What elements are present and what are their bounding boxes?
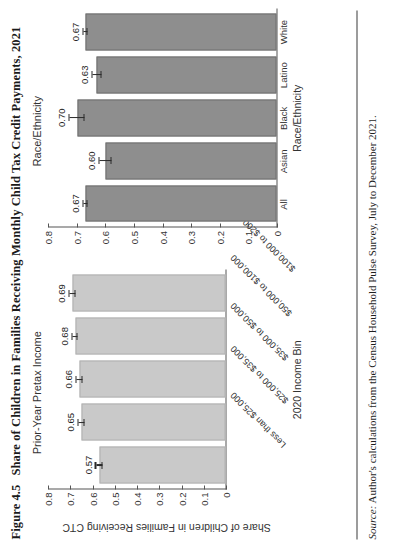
y-axis-ticks-race: 0.80.70.60.50.40.30.20.10 (48, 228, 277, 254)
y-tick-label: 0.4 (157, 231, 168, 244)
bar[interactable] (81, 403, 225, 440)
y-axis-ticks-income: 0.80.70.60.50.40.30.20.10 (48, 489, 226, 515)
error-bar-cap-bottom (86, 200, 87, 207)
x-category-label: Less than $25,000 (226, 444, 288, 487)
panel-title-race: Race/Ethnicity (30, 8, 48, 254)
x-axis-title-race: Race/Ethnicity (290, 8, 302, 228)
panel-prior-year-pretax-income: Prior-Year Pretax Income 0.80.70.60.50.4… (30, 270, 302, 516)
x-category-label: Asian (277, 139, 288, 182)
x-category-label: $50,000 to $100,000 (226, 315, 288, 358)
panel-body-income: 0.80.70.60.50.40.30.20.10 0.570.650.660.… (48, 270, 226, 516)
error-bar-cap-bottom (76, 332, 77, 339)
error-bar-cap-top (77, 418, 78, 425)
plot-area-race: 0.670.600.700.630.67 (48, 8, 277, 228)
bar[interactable] (96, 56, 276, 93)
y-tick-label: 0 (272, 231, 283, 236)
bar-group-income: 0.570.650.660.680.69 (48, 270, 225, 489)
source-note: Source: Author's calculations from the C… (364, 10, 380, 539)
source-divider (356, 10, 357, 539)
y-tick-label: 0.2 (176, 492, 187, 505)
error-bar-cap-bottom (83, 418, 84, 425)
y-axis-title-text: Share of Children in Families Receiving … (62, 522, 270, 534)
panel-body-race: 0.80.70.60.50.40.30.20.10 0.670.600.700.… (48, 8, 277, 254)
bar-column[interactable]: 0.57 (48, 443, 225, 486)
bar[interactable] (75, 317, 225, 354)
y-tick-label: 0.7 (65, 492, 76, 505)
error-bar (69, 117, 83, 118)
bar-value-label: 0.63 (78, 65, 89, 84)
error-bar-cap-top (98, 157, 99, 164)
x-category-label: Latino (277, 53, 288, 96)
bar[interactable] (72, 274, 225, 311)
error-bar-cap-bottom (74, 289, 75, 296)
error-bar-cap-top (82, 28, 83, 35)
y-axis-title: Share of Children in Families Receiving … (30, 515, 302, 541)
x-axis-categories-income: Less than $25,000$25,000 to $35,000$35,0… (226, 270, 288, 490)
y-tick-label: 0.6 (100, 231, 111, 244)
bar-value-label: 0.65 (64, 412, 75, 431)
error-bar-cap-bottom (101, 461, 102, 468)
chart-panels: Share of Children in Families Receiving … (30, 8, 302, 541)
x-category-label: Black (277, 96, 288, 139)
bar-column[interactable]: 0.66 (48, 357, 225, 400)
bar-column[interactable]: 0.67 (48, 10, 276, 53)
bar-column[interactable]: 0.63 (48, 53, 276, 96)
bar-value-label: 0.66 (62, 369, 73, 388)
y-tick-label: 0.5 (128, 231, 139, 244)
error-bar-cap-top (82, 200, 83, 207)
bar-column[interactable]: 0.65 (48, 400, 225, 443)
panel-race-ethnicity: Race/Ethnicity 0.80.70.60.50.40.30.20.10… (30, 8, 302, 254)
error-bar-cap-top (68, 114, 69, 121)
bar-value-label: 0.57 (82, 455, 93, 474)
y-tick-label: 0.8 (43, 231, 54, 244)
x-category-label: $35,000 to $50,000 (226, 358, 288, 401)
y-tick-label: 0.2 (214, 231, 225, 244)
bar[interactable] (85, 185, 276, 222)
x-category-label: All (277, 182, 288, 225)
error-bar-cap-top (91, 71, 92, 78)
bar-column[interactable]: 0.60 (48, 139, 276, 182)
x-axis-title-income: 2020 Income Bin (290, 270, 302, 490)
y-tick-label: 0 (221, 492, 232, 497)
error-bar-cap-top (75, 375, 76, 382)
y-tick-label: 0.8 (43, 492, 54, 505)
error-bar-cap-bottom (83, 114, 84, 121)
error-bar-cap-bottom (86, 28, 87, 35)
plot-area-income: 0.570.650.660.680.69 (48, 270, 226, 490)
x-category-label: $25,000 to $35,000 (226, 401, 288, 444)
bar[interactable] (105, 142, 276, 179)
figure-number: Figure 4.5 (8, 484, 22, 539)
bar[interactable] (77, 99, 277, 136)
error-bar (99, 160, 112, 161)
bar-value-label: 0.70 (55, 108, 66, 127)
error-bar-cap-bottom (81, 375, 82, 382)
x-axis-categories-race: AllAsianBlackLatinoWhite (277, 8, 288, 228)
bar-column[interactable]: 0.68 (48, 314, 225, 357)
bar-value-label: 0.60 (85, 151, 96, 170)
error-bar-cap-bottom (110, 157, 111, 164)
bar-group-race: 0.670.600.700.630.67 (48, 8, 276, 227)
error-bar-cap-top (94, 461, 95, 468)
bar[interactable] (85, 13, 276, 50)
bar-column[interactable]: 0.67 (48, 182, 276, 225)
y-tick-label: 0.3 (186, 231, 197, 244)
y-tick-label: 0.3 (154, 492, 165, 505)
y-tick-label: 0.1 (198, 492, 209, 505)
source-text: Author's calculations from the Census Ho… (365, 115, 377, 503)
bar-column[interactable]: 0.70 (48, 96, 276, 139)
figure-title: Share of Children in Families Receiving … (8, 26, 22, 475)
y-tick-label: 0.4 (132, 492, 143, 505)
error-bar-cap-bottom (100, 71, 101, 78)
y-tick-label: 0.6 (87, 492, 98, 505)
bar-column[interactable]: 0.69 (48, 271, 225, 314)
bar-value-label: 0.69 (55, 284, 66, 303)
error-bar-cap-top (71, 332, 72, 339)
x-category-label: $100,000 to $200,000 (226, 272, 288, 315)
figure-caption: Figure 4.5Share of Children in Families … (8, 10, 23, 539)
bar-value-label: 0.67 (69, 194, 80, 213)
panel-title-income: Prior-Year Pretax Income (30, 270, 48, 516)
bar[interactable] (99, 446, 225, 483)
source-label: Source: (365, 505, 377, 539)
bar[interactable] (79, 360, 225, 397)
y-tick-label: 0.1 (243, 231, 254, 244)
